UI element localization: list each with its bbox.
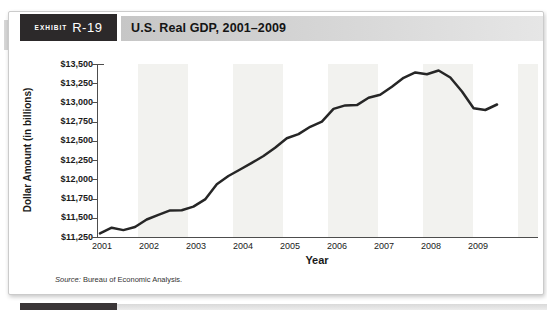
x-tick-label: 2007 (374, 241, 394, 251)
x-tick-label: 2006 (327, 241, 347, 251)
plot-area (97, 64, 538, 238)
x-tick-label: 2001 (92, 241, 112, 251)
source-prefix: Source: (55, 275, 81, 284)
exhibit-card: EXHIBIT R-19 U.S. Real GDP, 2001–2009 Do… (8, 11, 544, 295)
next-exhibit-bar (117, 304, 547, 310)
source-text: Bureau of Economic Analysis. (81, 275, 182, 284)
x-axis-title: Year (97, 254, 537, 266)
x-tick-label: 2005 (280, 241, 300, 251)
exhibit-title-bar: U.S. Real GDP, 2001–2009 (121, 16, 543, 41)
gdp-line-svg (98, 64, 538, 237)
page: EXHIBIT R-19 U.S. Real GDP, 2001–2009 Do… (0, 0, 547, 310)
exhibit-number: R-19 (72, 20, 102, 35)
x-tick-label: 2009 (468, 241, 488, 251)
exhibit-badge: EXHIBIT R-19 (20, 14, 117, 41)
next-exhibit-badge (20, 303, 117, 310)
source-note: Source: Bureau of Economic Analysis. (55, 275, 182, 284)
x-tick-label: 2003 (186, 241, 206, 251)
x-tick-label: 2008 (421, 241, 441, 251)
x-tick-label: 2002 (139, 241, 159, 251)
chart-title: U.S. Real GDP, 2001–2009 (121, 16, 543, 41)
x-tick-label: 2004 (233, 241, 253, 251)
exhibit-label: EXHIBIT (35, 24, 68, 31)
gdp-line (100, 71, 497, 234)
